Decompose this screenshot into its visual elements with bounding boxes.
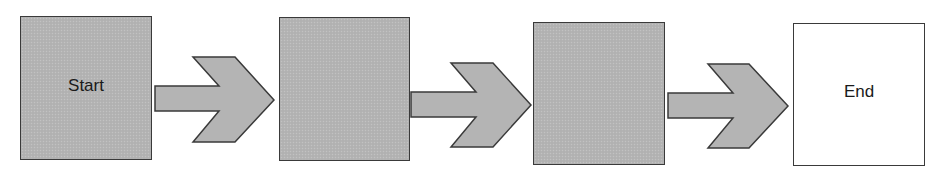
end-node-label: End <box>844 83 874 100</box>
end-node: End <box>793 23 925 166</box>
flow-diagram: Start End <box>0 0 939 170</box>
